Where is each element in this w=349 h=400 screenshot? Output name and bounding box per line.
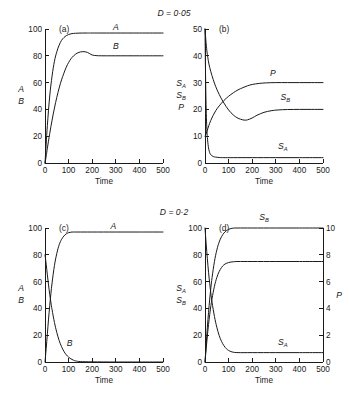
- axis-lines-a: [45, 29, 163, 163]
- y2-tick-label-d-4: 4: [326, 304, 331, 313]
- x-tick-label-b-300: 300: [269, 166, 283, 175]
- y-tick-label-c-60: 60: [33, 278, 43, 287]
- x-tick-label-a-400: 400: [133, 166, 147, 175]
- y-tick-label-b-30: 30: [193, 79, 203, 88]
- x-tick-label-b-200: 200: [245, 166, 259, 175]
- y2-axis-title-d: P: [336, 290, 342, 300]
- x-axis-title-c: Time: [95, 376, 113, 385]
- y-axis-title-d-1: SB: [176, 295, 186, 306]
- y2-tick-label-d-6: 6: [326, 278, 331, 287]
- y-tick-label-a-0: 0: [37, 159, 42, 168]
- curve-label-c-A: A: [110, 221, 117, 231]
- y-tick-label-c-20: 20: [33, 331, 43, 340]
- curve-d-P: [205, 261, 323, 362]
- curve-c-A: [45, 232, 163, 362]
- y-tick-label-a-40: 40: [33, 105, 43, 114]
- x-tick-label-a-300: 300: [109, 166, 123, 175]
- x-tick-label-c-0: 0: [43, 365, 48, 374]
- curve-label-b-SB: SB: [280, 92, 290, 103]
- x-tick-label-c-400: 400: [133, 365, 147, 374]
- curve-d-SA: [205, 228, 323, 353]
- y-tick-label-d-20: 20: [193, 331, 203, 340]
- x-axis-title-b: Time: [255, 177, 273, 186]
- condition-label-1: D = 0·2: [160, 207, 189, 217]
- axis-lines-b: [205, 29, 323, 163]
- y-axis-title-b-0: SA: [176, 78, 186, 89]
- panel-a: 0100200300400500Time020406080100AB(a)AB: [17, 22, 170, 186]
- y-tick-label-d-60: 60: [193, 278, 203, 287]
- y2-tick-label-d-8: 8: [326, 251, 331, 260]
- x-axis-title-a: Time: [95, 177, 113, 186]
- curve-b-SB: [205, 29, 323, 120]
- x-tick-label-d-100: 100: [222, 365, 236, 374]
- x-tick-label-a-100: 100: [62, 166, 76, 175]
- x-tick-label-d-200: 200: [245, 365, 259, 374]
- y-axis-title-d-0: SA: [176, 283, 186, 294]
- curve-b-SA: [205, 29, 323, 158]
- y-tick-label-d-80: 80: [193, 251, 203, 260]
- panel-c: 0100200300400500Time020406080100AB(c)AB: [17, 221, 170, 385]
- y-axis-title-c-0: A: [17, 283, 24, 293]
- y-tick-label-a-80: 80: [33, 52, 43, 61]
- y-axis-title-a-1: B: [18, 96, 24, 106]
- y-axis-title-a-0: A: [17, 84, 24, 94]
- y2-tick-label-d-2: 2: [326, 331, 331, 340]
- y-tick-label-d-40: 40: [193, 304, 203, 313]
- y-tick-label-c-40: 40: [33, 304, 43, 313]
- x-tick-label-a-200: 200: [85, 166, 99, 175]
- y2-tick-label-d-0: 0: [326, 358, 331, 367]
- curve-label-d-SA: SA: [278, 337, 288, 348]
- x-tick-label-b-400: 400: [293, 166, 307, 175]
- y-tick-label-b-50: 50: [193, 25, 203, 34]
- x-tick-label-d-300: 300: [269, 365, 283, 374]
- curve-label-b-P: P: [270, 68, 276, 78]
- axis-lines-d: [205, 228, 323, 362]
- x-tick-label-b-0: 0: [203, 166, 208, 175]
- y-axis-title-b-2: P: [178, 102, 184, 112]
- curve-c-B: [45, 255, 163, 362]
- curve-a-B: [45, 52, 163, 163]
- y-tick-label-a-60: 60: [33, 79, 43, 88]
- curve-label-d-SB: SB: [259, 212, 269, 223]
- x-tick-label-a-0: 0: [43, 166, 48, 175]
- x-tick-label-a-500: 500: [156, 166, 170, 175]
- x-tick-label-b-100: 100: [222, 166, 236, 175]
- x-tick-label-d-400: 400: [293, 365, 307, 374]
- panel-label-a: (a): [59, 24, 69, 34]
- curve-label-c-B: B: [67, 338, 73, 348]
- x-tick-label-c-100: 100: [62, 365, 76, 374]
- y-tick-label-c-0: 0: [37, 358, 42, 367]
- x-axis-title-d: Time: [255, 376, 273, 385]
- panel-label-c: (c): [59, 223, 69, 233]
- y-tick-label-a-20: 20: [33, 132, 43, 141]
- y-tick-label-b-20: 20: [193, 105, 203, 114]
- y-tick-label-d-100: 100: [188, 224, 202, 233]
- y-tick-label-b-40: 40: [193, 52, 203, 61]
- x-tick-label-c-300: 300: [109, 365, 123, 374]
- y-tick-label-d-0: 0: [197, 358, 202, 367]
- curve-a-A: [45, 33, 163, 163]
- condition-label-0: D = 0·05: [157, 8, 190, 18]
- x-tick-label-c-500: 500: [156, 365, 170, 374]
- figure-svg: 0100200300400500Time020406080100AB(a)AB0…: [0, 0, 349, 400]
- figure-panel-grid: 0100200300400500Time020406080100AB(a)AB0…: [0, 0, 349, 400]
- y-tick-label-b-10: 10: [193, 132, 203, 141]
- panel-label-b: (b): [219, 24, 229, 34]
- axis-lines-c: [45, 228, 163, 362]
- y-tick-label-c-80: 80: [33, 251, 43, 260]
- y2-tick-label-d-10: 10: [326, 224, 336, 233]
- x-tick-label-b-500: 500: [316, 166, 330, 175]
- panel-label-d: (d): [219, 223, 229, 233]
- curve-label-a-A: A: [112, 22, 119, 32]
- y-tick-label-b-0: 0: [197, 159, 202, 168]
- y-axis-title-c-1: B: [18, 295, 24, 305]
- panel-b: 0100200300400500Time01020304050SASBP(b)S…: [176, 24, 330, 186]
- y-tick-label-a-100: 100: [28, 25, 42, 34]
- curve-d-SB: [205, 228, 323, 362]
- curve-label-b-SA: SA: [278, 141, 288, 152]
- curve-label-a-B: B: [113, 41, 119, 51]
- y-tick-label-c-100: 100: [28, 224, 42, 233]
- x-tick-label-c-200: 200: [85, 365, 99, 374]
- x-tick-label-d-0: 0: [203, 365, 208, 374]
- y-axis-title-b-1: SB: [176, 90, 186, 101]
